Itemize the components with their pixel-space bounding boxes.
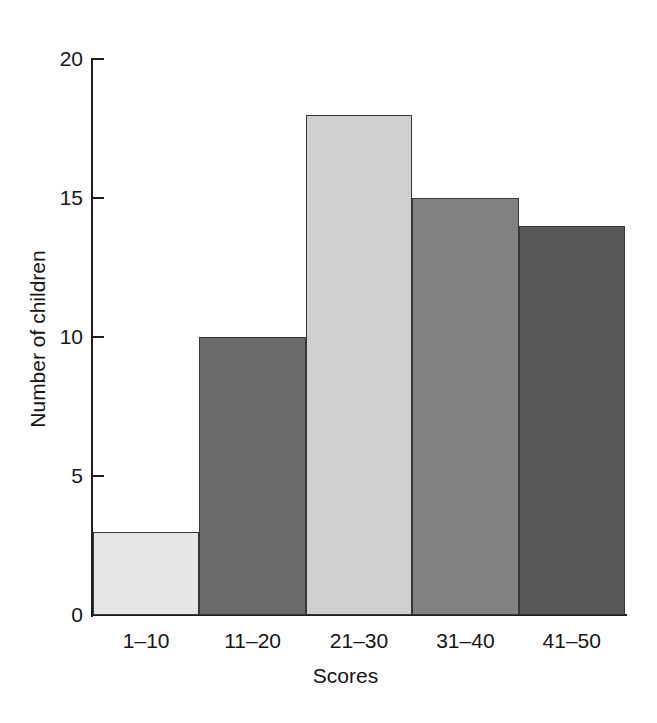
- x-tick-label-1-10: 1–10: [93, 629, 199, 653]
- plot-area: [93, 59, 625, 615]
- x-axis-title-text: Scores: [0, 664, 657, 688]
- x-tick-label-41-50: 41–50: [519, 629, 625, 653]
- x-tick-label-21-30: 21–30: [306, 629, 412, 653]
- y-tick-label-wrap-20: 20: [30, 48, 83, 69]
- x-tick-label-11-20: 11–20: [199, 629, 305, 653]
- y-tick-label-wrap-0: 0: [30, 604, 83, 625]
- bar-41-50: [519, 226, 625, 615]
- x-tick-label-31-40: 31–40: [412, 629, 518, 653]
- bar-11-20: [199, 337, 305, 615]
- bar-21-30: [306, 115, 412, 615]
- y-tick-label-20: 20: [37, 48, 83, 69]
- bar-1-10: [93, 532, 199, 615]
- bar-31-40: [412, 198, 518, 615]
- y-tick-label-0: 0: [37, 604, 83, 625]
- y-axis-title-text: Number of children: [26, 89, 50, 589]
- chart-title: [0, 0, 657, 9]
